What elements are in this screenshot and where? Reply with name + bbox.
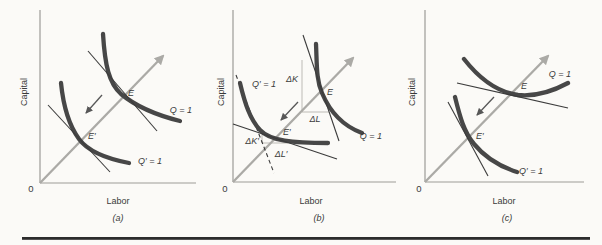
point-e-label: E: [327, 87, 334, 97]
x-axis-label: Labor: [299, 196, 322, 206]
delta-l-label: ΔL: [308, 114, 320, 124]
bottom-rule: [22, 237, 590, 240]
isoquant-q-label: Q = 1: [549, 69, 571, 79]
isocost-line-e: [457, 83, 568, 108]
panel-b: Capital 0 Labor (b) Q = 1 Q′ = 1 E E′ ΔK…: [216, 10, 396, 223]
delta-k-label: ΔK: [285, 74, 299, 84]
delta-l-prime-label: ΔL′: [274, 149, 288, 159]
point-e-label: E: [128, 88, 135, 98]
shift-direction-arrow: [86, 95, 102, 113]
isoquant-q-prime-label: Q′ = 1: [519, 166, 543, 176]
origin-label: 0: [28, 183, 33, 194]
isoquant-q-label: Q = 1: [360, 131, 382, 141]
isoquant-q-prime: [455, 97, 517, 172]
y-axis-label: Capital: [216, 78, 226, 106]
isocost-line-e-prime: [48, 105, 110, 172]
point-e-prime-label: E′: [476, 131, 484, 141]
figure-canvas: Capital 0 Labor (a) Q = 1 Q′ = 1 E E′ Ca…: [0, 0, 602, 245]
y-axis-label: Capital: [407, 78, 417, 106]
x-axis-label: Labor: [492, 196, 515, 206]
delta-k-prime-label: ΔK′: [244, 136, 259, 146]
isoquant-figure: Capital 0 Labor (a) Q = 1 Q′ = 1 E E′ Ca…: [0, 0, 602, 245]
panel-caption: (c): [502, 213, 513, 223]
isoquant-q-label: Q = 1: [170, 105, 192, 115]
point-e-label: E: [521, 81, 528, 91]
point-e-prime-label: E′: [283, 127, 291, 137]
isoquant-q-prime-label: Q′ = 1: [138, 156, 162, 166]
isocost-line-e: [88, 51, 157, 131]
point-e-prime-label: E′: [88, 131, 96, 141]
origin-label: 0: [222, 183, 227, 194]
y-axis-label: Capital: [19, 78, 29, 106]
panel-caption: (a): [113, 213, 124, 223]
panel-a: Capital 0 Labor (a) Q = 1 Q′ = 1 E E′: [19, 10, 196, 223]
panel-caption: (b): [314, 213, 325, 223]
x-axis-label: Labor: [106, 196, 129, 206]
isocost-line-e: [303, 35, 339, 141]
expansion-ray: [425, 56, 548, 182]
panel-c: Capital 0 Labor (c) Q = 1 Q′ = 1 E E′: [407, 10, 584, 223]
isoquant-q-prime-label: Q′ = 1: [252, 79, 276, 89]
origin-label: 0: [416, 183, 421, 194]
